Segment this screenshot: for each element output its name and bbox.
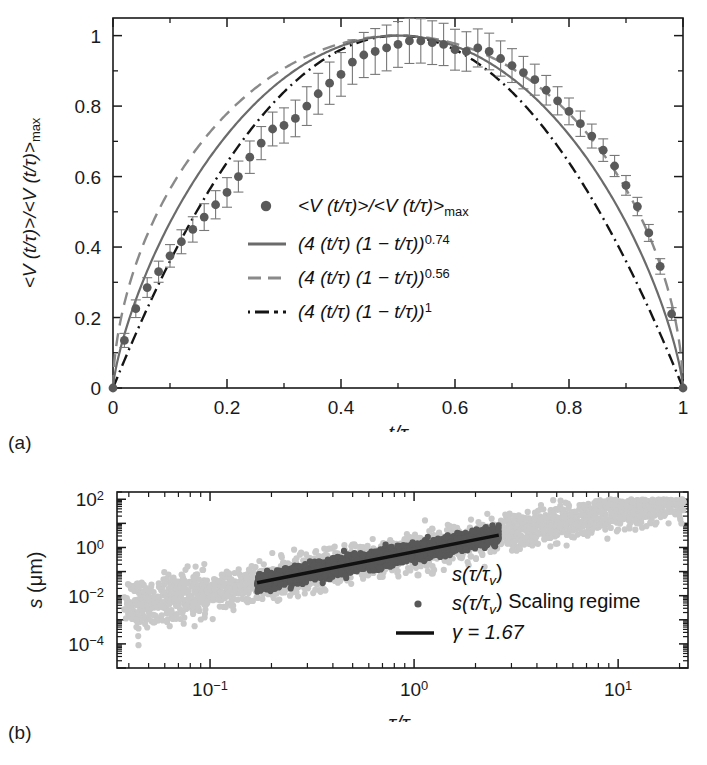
panel-a-ytick-label: 0.2: [75, 308, 101, 329]
panel-b-point-light: [151, 600, 157, 606]
legend-marker-circle-icon: [261, 201, 271, 211]
panel-a-data-point: [234, 172, 243, 181]
panel-a-xtick-label: 0: [108, 397, 119, 418]
panel-b-point-dark: [344, 551, 350, 557]
panel-b-point-light: [291, 547, 297, 553]
panel-b-point-dark: [288, 585, 294, 591]
panel-a-svg: 00.20.40.60.8100.20.40.60.81t/τ<V (t/τ)>…: [0, 0, 707, 432]
panel-b-point-light: [404, 531, 410, 537]
panel-a-data-point: [177, 237, 186, 246]
panel-b-point-light: [444, 527, 450, 533]
panel-b-ytick-label: 100: [76, 537, 104, 559]
panel-a-data-point: [154, 267, 163, 276]
panel-b-point-dark: [456, 545, 462, 551]
panel-a-data-point: [382, 44, 391, 53]
panel-b-point-light: [619, 501, 625, 507]
panel-b-point-dark: [437, 552, 443, 558]
panel-b-point-light: [506, 534, 512, 540]
panel-b-point-light: [612, 497, 618, 503]
panel-b-point-light: [652, 521, 658, 527]
panel-b-point-light: [441, 567, 447, 573]
panel-b-point-light: [183, 604, 189, 610]
panel-b-point-light: [216, 597, 222, 603]
panel-b-point-light: [370, 536, 376, 542]
panel-b-point-light: [312, 549, 318, 555]
panel-b-point-light: [582, 529, 588, 535]
panel-a-label: (a): [8, 432, 32, 454]
panel-b-point-light: [353, 543, 359, 549]
panel-a-data-point: [416, 37, 425, 46]
panel-b-point-light: [312, 587, 318, 593]
panel-a-data-point: [120, 336, 129, 345]
panel-b-point-light: [130, 611, 136, 617]
panel-b-point-light: [643, 523, 649, 529]
panel-b-point-light: [287, 593, 293, 599]
panel-b-point-light: [179, 610, 185, 616]
panel-a-data-point: [211, 200, 220, 209]
panel-b-point-light: [669, 509, 675, 515]
panel-a-data-point: [302, 102, 311, 111]
panel-b-point-light: [643, 503, 649, 509]
panel-b-point-light: [182, 567, 188, 573]
panel-b-point-dark: [338, 568, 344, 574]
panel-b-point-light: [279, 554, 285, 560]
panel-b-point-light: [341, 542, 347, 548]
panel-b-point-light: [651, 508, 657, 514]
panel-b-point-light: [484, 511, 490, 517]
panel-b-point-light: [224, 592, 230, 598]
panel-a-data-point: [553, 96, 562, 105]
panel-a-data-point: [337, 70, 346, 79]
panel-a-data-point: [587, 132, 596, 141]
panel-b-point-light: [614, 528, 620, 534]
panel-b-point-light: [642, 497, 648, 503]
panel-b-point-light: [459, 553, 465, 559]
panel-a-data-point: [280, 121, 289, 130]
panel-b-point-light: [321, 546, 327, 552]
panel-b-point-light: [161, 589, 167, 595]
panel-b-point-light: [525, 509, 531, 515]
panel-b-point-light: [535, 529, 541, 535]
panel-a-data-point: [633, 202, 642, 211]
panel-b-point-light: [514, 530, 520, 536]
panel-b-point-light: [661, 513, 667, 519]
panel-b-point-light: [150, 612, 156, 618]
panel-b-point-light: [581, 502, 587, 508]
panel-a-data-point: [542, 86, 551, 95]
panel-b-point-light: [674, 501, 680, 507]
panel-b-point-light: [232, 570, 238, 576]
panel-b-point-light: [571, 534, 577, 540]
panel-b-point-light: [468, 517, 474, 523]
panel-b-point-light: [553, 541, 559, 547]
panel-b-point-light: [518, 516, 524, 522]
panel-a-data-point: [143, 283, 152, 292]
panel-b-point-light: [226, 586, 232, 592]
panel-b-point-light: [555, 506, 561, 512]
panel-a-xtick-label: 1: [678, 397, 689, 418]
panel-b-xtick-label: 10−1: [192, 678, 228, 700]
panel-b-point-dark: [383, 563, 389, 569]
panel-b-point-dark: [387, 544, 393, 550]
panel-b-point-light: [565, 505, 571, 511]
panel-b-point-light: [248, 585, 254, 591]
panel-a-data-point: [644, 229, 653, 238]
panel-a-data-point: [599, 146, 608, 155]
panel-a-xtick-label: 0.4: [328, 397, 355, 418]
panel-b-point-light: [509, 548, 515, 554]
panel-b-point-light: [281, 559, 287, 565]
panel-b-point-light: [613, 508, 619, 514]
panel-b-point-light: [475, 519, 481, 525]
panel-b-point-light: [666, 520, 672, 526]
panel-a-data-point: [314, 89, 323, 98]
panel-b-point-light: [511, 513, 517, 519]
panel-b-point-light: [544, 535, 550, 541]
panel-a-data-point: [462, 47, 471, 56]
panel-b-point-light: [166, 601, 172, 607]
panel-b-point-light: [564, 542, 570, 548]
panel-b-point-light: [192, 623, 198, 629]
legend-light-dot-icon: [414, 571, 421, 578]
panel-a-data-point: [109, 384, 118, 393]
panel-a-data-point: [622, 181, 631, 190]
panel-a-data-point: [348, 58, 357, 67]
panel-b-point-light: [200, 582, 206, 588]
panel-b-point-light: [639, 511, 645, 517]
